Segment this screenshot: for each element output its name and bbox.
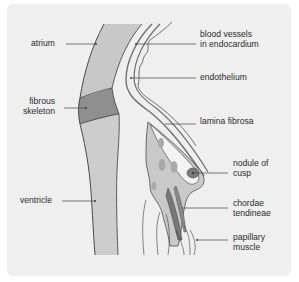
label-lamina-fibrosa: lamina fibrosa (200, 117, 254, 127)
label-atrium: atrium (31, 39, 55, 49)
label-endothelium: endothelium (200, 73, 247, 83)
label-fibrous-skeleton: fibrous skeleton (23, 97, 55, 116)
label-papillary-muscle: papillary muscle (233, 233, 265, 252)
atrium-wall (80, 24, 142, 98)
label-nodule-of-cusp: nodule of cusp (233, 159, 268, 178)
ventricle-wall (80, 114, 119, 255)
label-chordae-tendineae: chordae tendineae (233, 199, 271, 218)
label-ventricle: ventricle (20, 196, 52, 206)
label-blood-vessels: blood vessels in endocardium (200, 30, 259, 49)
